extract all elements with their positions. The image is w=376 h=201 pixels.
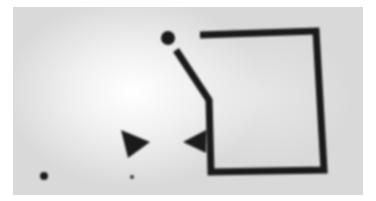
top-dot bbox=[161, 31, 175, 45]
right-triangle bbox=[183, 130, 206, 153]
small-dot-left bbox=[40, 172, 48, 180]
left-triangle bbox=[121, 130, 150, 158]
line-path bbox=[176, 31, 324, 172]
diagram-drawing bbox=[0, 0, 376, 201]
small-dot-mid bbox=[130, 175, 134, 179]
